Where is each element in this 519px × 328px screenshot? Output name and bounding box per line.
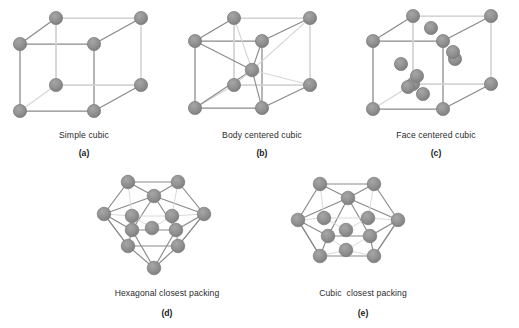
atom-sphere xyxy=(121,175,135,189)
panel-face-centered-cubic xyxy=(355,4,517,126)
atom-sphere xyxy=(49,11,62,24)
footer-text-fragment xyxy=(2,316,88,326)
atom-sphere xyxy=(367,249,381,263)
atom-sphere xyxy=(125,209,139,223)
cubic-closest-packing-diagram xyxy=(288,172,438,282)
atom-sphere xyxy=(341,191,355,205)
atom-sphere xyxy=(147,189,161,203)
atom-sphere xyxy=(484,9,497,22)
body-centered-cubic-diagram xyxy=(182,4,342,126)
atom-sphere xyxy=(361,211,375,225)
atom-sphere xyxy=(339,243,353,257)
hexagonal-closest-packing-diagram xyxy=(92,172,242,282)
atom-sphere-center xyxy=(145,221,159,235)
atom-sphere xyxy=(291,213,305,227)
atom-sphere xyxy=(13,37,26,50)
atom-sphere xyxy=(171,175,185,189)
atom-sphere xyxy=(321,229,335,243)
atom-sphere xyxy=(227,11,240,24)
panel-body-centered-cubic xyxy=(182,4,342,126)
caption-simple-cubic: Simple cubic xyxy=(4,130,164,141)
panel-hexagonal-closest-packing xyxy=(92,172,242,282)
crystal-lattice-figure: Simple cubic (a) xyxy=(0,0,519,328)
atom-sphere xyxy=(227,78,240,91)
atom-sphere-body-center xyxy=(245,63,259,77)
atom-sphere xyxy=(165,209,179,223)
atom-sphere xyxy=(97,207,111,221)
caption-letter-c: (c) xyxy=(355,148,517,159)
atom-sphere xyxy=(87,104,100,117)
atom-sphere-face-center xyxy=(424,21,437,34)
caption-letter-d: (d) xyxy=(72,308,262,319)
caption-letter-e: (e) xyxy=(268,308,458,319)
atom-sphere xyxy=(406,9,419,22)
atom-sphere xyxy=(188,101,201,114)
caption-cubic-closest-packing: Cubic closest packing xyxy=(268,288,458,299)
caption-face-centered-cubic: Face centered cubic xyxy=(355,130,517,141)
atom-sphere xyxy=(363,229,377,243)
simple-cubic-diagram xyxy=(4,4,164,126)
atom-sphere xyxy=(317,211,331,225)
atom-sphere xyxy=(391,213,405,227)
atom-sphere xyxy=(366,34,379,47)
atom-sphere xyxy=(197,207,211,221)
atom-sphere-face-center xyxy=(401,80,414,93)
atom-sphere-center xyxy=(339,223,353,237)
atom-sphere-face-center xyxy=(410,69,423,82)
caption-letter-b: (b) xyxy=(182,148,342,159)
atom-sphere xyxy=(147,261,161,275)
atom-sphere xyxy=(134,11,147,24)
atom-sphere xyxy=(303,11,316,24)
atom-sphere-face-center xyxy=(416,87,429,100)
atom-sphere xyxy=(436,102,449,115)
atom-sphere xyxy=(366,102,379,115)
atom-sphere xyxy=(125,223,139,237)
atom-sphere xyxy=(313,177,327,191)
panel-cubic-closest-packing xyxy=(288,172,438,282)
atom-sphere xyxy=(255,101,268,114)
atom-sphere xyxy=(303,78,316,91)
atom-sphere xyxy=(13,104,26,117)
atom-sphere xyxy=(169,223,183,237)
panel-simple-cubic xyxy=(4,4,164,126)
caption-body-centered-cubic: Body centered cubic xyxy=(182,130,342,141)
atom-sphere xyxy=(134,78,147,91)
atom-sphere xyxy=(87,37,100,50)
atom-sphere xyxy=(484,77,497,90)
atom-sphere xyxy=(171,239,185,253)
atom-sphere xyxy=(367,177,381,191)
atom-sphere xyxy=(49,78,62,91)
atom-sphere xyxy=(121,239,135,253)
atom-sphere xyxy=(188,34,201,47)
atom-sphere xyxy=(313,249,327,263)
caption-hexagonal-closest-packing: Hexagonal closest packing xyxy=(72,288,262,299)
atom-sphere xyxy=(255,34,268,47)
caption-letter-a: (a) xyxy=(4,148,164,159)
face-centered-cubic-diagram xyxy=(355,4,517,126)
atom-sphere-face-center xyxy=(394,57,407,70)
atom-sphere-face-center xyxy=(446,45,459,58)
atom-sphere xyxy=(436,34,449,47)
